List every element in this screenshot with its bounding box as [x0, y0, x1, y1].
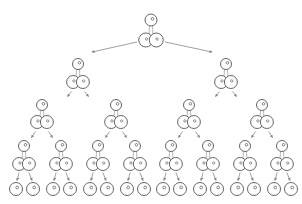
leaf-circle [211, 183, 224, 196]
head-circle [37, 100, 48, 111]
arrow [164, 173, 166, 181]
arrow [68, 92, 72, 97]
head-circle [240, 141, 251, 152]
leaf-circle [174, 183, 187, 196]
leaf-cell-4 [84, 183, 97, 196]
arrow [196, 132, 200, 138]
cell-node-L3-2 [87, 141, 110, 171]
head-circle [145, 14, 157, 26]
arrow [103, 173, 106, 181]
arrow [106, 132, 110, 138]
arrow [140, 173, 143, 181]
arrow [49, 132, 53, 138]
arrow [216, 92, 220, 97]
cell-division-tree-diagram [0, 0, 302, 204]
arrow [275, 173, 277, 181]
arrow [176, 173, 179, 181]
leaf-circle [84, 183, 97, 196]
arrow [17, 173, 19, 181]
cell-node-L2-1 [105, 100, 128, 129]
cell-node-L2-3 [251, 100, 274, 129]
leaf-circle [231, 183, 244, 196]
leaf-circle [138, 183, 151, 196]
leaf-cell-5 [101, 183, 114, 196]
arrow [233, 92, 237, 97]
leaf-circle [101, 183, 114, 196]
leaf-cell-0 [10, 183, 23, 196]
arrow [85, 92, 89, 97]
cell-node-L2-0 [31, 100, 54, 129]
cell-node-L1-1 [215, 59, 238, 89]
leaf-circle [121, 183, 134, 196]
arrow [123, 132, 127, 138]
leaf-circle [157, 183, 170, 196]
leaf-circle [64, 183, 77, 196]
head-circle [73, 59, 84, 70]
leaves-group [10, 183, 298, 196]
leaf-cell-12 [231, 183, 244, 196]
leaf-cell-11 [211, 183, 224, 196]
arrow [287, 173, 290, 181]
head-circle [203, 141, 214, 152]
leaf-circle [285, 183, 298, 196]
leaf-cell-10 [194, 183, 207, 196]
head-circle [221, 59, 232, 70]
leaf-cell-7 [138, 183, 151, 196]
head-circle [56, 141, 67, 152]
arrow [66, 173, 69, 181]
head-circle [93, 141, 104, 152]
cell-node-L3-3 [124, 141, 147, 171]
cell-node-L3-6 [234, 141, 257, 171]
head-circle [19, 141, 30, 152]
cell-node-L3-4 [160, 141, 183, 171]
leaf-circle [47, 183, 60, 196]
cell-node-L3-1 [50, 141, 73, 171]
head-circle [277, 141, 288, 152]
leaf-cell-14 [268, 183, 281, 196]
leaf-cell-6 [121, 183, 134, 196]
arrow [32, 132, 36, 138]
head-circle [257, 100, 268, 111]
cell-node-L2-2 [178, 100, 201, 129]
arrow [128, 173, 130, 181]
arrow [269, 132, 273, 138]
leaf-circle [194, 183, 207, 196]
arrow [201, 173, 203, 181]
arrow [250, 173, 253, 181]
arrow [92, 42, 137, 52]
head-circle [111, 100, 122, 111]
leaf-cell-15 [285, 183, 298, 196]
leaf-circle [268, 183, 281, 196]
arrow [213, 173, 216, 181]
cell-node-L3-7 [271, 141, 294, 171]
arrow [54, 173, 56, 181]
arrow [179, 132, 183, 138]
cell-node-L0-0 [139, 14, 164, 47]
leaf-cell-13 [248, 183, 261, 196]
tree-svg [0, 0, 302, 204]
arrow [252, 132, 256, 138]
leaf-circle [27, 183, 40, 196]
head-circle [184, 100, 195, 111]
leaf-cell-1 [27, 183, 40, 196]
leaf-cell-3 [64, 183, 77, 196]
arrow [165, 42, 212, 52]
leaf-circle [10, 183, 23, 196]
arrow [238, 173, 240, 181]
leaf-cell-2 [47, 183, 60, 196]
head-circle [130, 141, 141, 152]
leaf-cell-8 [157, 183, 170, 196]
arrow [29, 173, 32, 181]
cell-node-L1-0 [67, 59, 90, 89]
cell-node-L3-0 [13, 141, 36, 171]
leaf-cell-9 [174, 183, 187, 196]
cell-node-L3-5 [197, 141, 220, 171]
leaf-circle [248, 183, 261, 196]
arrow [91, 173, 93, 181]
head-circle [166, 141, 177, 152]
nodes-group [13, 14, 294, 171]
